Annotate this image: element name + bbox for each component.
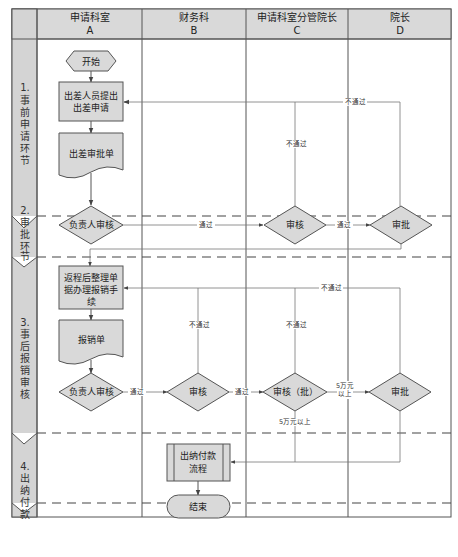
cashier-process-box [167, 444, 230, 481]
review-b-label: 审核 [189, 386, 207, 397]
col-header-a-name: 申请科室 [70, 11, 110, 23]
review-a1-label: 负责人审核 [69, 219, 114, 230]
end-label: 结束 [189, 501, 207, 512]
label-pass-b: 通过 [235, 387, 249, 396]
col-header-b-name: 财务科 [179, 11, 209, 23]
svg-text:销: 销 [20, 364, 30, 376]
svg-text:审: 审 [20, 376, 30, 388]
label-fail-d1: 不通过 [345, 97, 366, 106]
review-a2-label: 负责人审核 [69, 386, 114, 397]
svg-text:申: 申 [20, 118, 30, 130]
label-over50k-2: 以上 [338, 389, 352, 398]
submit-label-1: 出差人员提出 [64, 90, 118, 101]
svg-text:核: 核 [20, 388, 30, 400]
col-header-a-code: A [87, 25, 94, 36]
col-header-c-code: C [294, 25, 301, 36]
submit-label-2: 出差申请 [73, 102, 109, 113]
swimlane-flowchart: 申请科室 A 财务科 B 申请科室分管院长 C 院长 D 1. 事 前 申 请 … [0, 0, 458, 557]
reimburse-label-2: 据办理报销手 [64, 284, 118, 295]
form2-label: 报销单 [78, 334, 105, 345]
approve-d2-label: 审批 [391, 386, 409, 397]
svg-text:2.: 2. [20, 205, 30, 216]
col-header-d-code: D [396, 25, 404, 36]
approve-d1-label: 审批 [392, 219, 410, 230]
svg-text:4.: 4. [20, 461, 30, 472]
label-fail-d2: 不通过 [321, 283, 342, 292]
svg-text:请: 请 [20, 130, 30, 142]
form1-label: 出差审批单 [69, 148, 114, 159]
svg-text:3.: 3. [20, 317, 30, 328]
svg-text:事: 事 [20, 328, 30, 340]
reimburse-label-3: 续 [87, 296, 96, 307]
svg-text:报: 报 [20, 352, 30, 364]
label-fail-b: 不通过 [189, 320, 210, 329]
label-pass-c1: 通过 [337, 220, 351, 229]
svg-text:1.: 1. [20, 82, 30, 93]
label-over50k-1: 5万元 [336, 382, 354, 390]
review-c2-label: 审核（批） [273, 386, 318, 397]
review-c1-label: 审核 [286, 219, 304, 230]
svg-text:后: 后 [20, 341, 30, 352]
stage-label-4: 4. 出 纳 付 款 [20, 461, 30, 520]
svg-text:前: 前 [20, 106, 30, 118]
cashier-label-1: 出纳付款 [180, 450, 216, 461]
label-fail-c1: 不通过 [286, 139, 307, 148]
stage-label-3: 3. 事 后 报 销 审 核 [20, 317, 30, 400]
svg-text:审: 审 [20, 216, 30, 228]
svg-text:纳: 纳 [20, 484, 30, 496]
col-header-d-name: 院长 [390, 11, 410, 23]
svg-text:节: 节 [20, 251, 30, 262]
svg-text:事: 事 [20, 94, 30, 106]
label-pass-a2: 通过 [130, 387, 144, 396]
svg-text:环: 环 [20, 143, 30, 154]
col-header-c-name: 申请科室分管院长 [257, 11, 337, 23]
svg-text:款: 款 [20, 508, 30, 520]
start-label: 开始 [82, 56, 100, 67]
label-c2-down: 5万元以上 [279, 417, 311, 426]
reimburse-label-1: 返程后整理单 [64, 272, 118, 283]
svg-text:节: 节 [20, 155, 30, 166]
label-pass-a1: 通过 [199, 220, 213, 229]
svg-text:出: 出 [20, 472, 30, 484]
svg-text:付: 付 [20, 496, 30, 508]
cashier-label-2: 流程 [189, 463, 207, 474]
svg-text:批: 批 [20, 228, 30, 240]
submit-request-box [59, 82, 123, 121]
stage-label-2: 2. 2. 审 批 环 节 [20, 205, 30, 262]
col-header-b-code: B [191, 25, 198, 36]
stage-label-1: 1. 事 前 申 请 环 节 [20, 82, 30, 166]
label-fail-c2: 不通过 [286, 320, 307, 329]
